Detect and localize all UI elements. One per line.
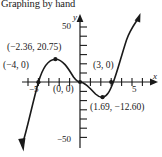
annotation-x-intercept-neg4: (−4, 0) xyxy=(3,61,29,71)
graph-figure: Graphing by hand xyxy=(0,0,162,157)
annotation-origin: (0, 0) xyxy=(53,85,74,95)
x-tick-label-neg5: −5 xyxy=(29,85,39,94)
point-local-max xyxy=(53,57,57,61)
x-axis-label: x xyxy=(153,72,157,81)
y-tick-label-neg50: −50 xyxy=(57,135,71,144)
point-origin xyxy=(78,80,82,84)
annotation-local-max: (−2.36, 20.75) xyxy=(7,43,61,53)
y-tick-label-50: 50 xyxy=(62,22,71,31)
annotation-local-min: (1.69, −12.60) xyxy=(90,103,144,113)
annotation-x-intercept-3: (3, 0) xyxy=(93,61,114,71)
cubic-graph-plot xyxy=(0,0,162,157)
y-axis-arrowhead xyxy=(77,14,84,22)
y-axis-label: y xyxy=(73,13,77,22)
point-local-min xyxy=(100,95,104,99)
curve-arrowhead-lower-left xyxy=(18,138,25,152)
point-x-intercept-3 xyxy=(109,80,113,84)
x-tick-label-5: 5 xyxy=(132,85,137,94)
curve-arrowhead-upper-right xyxy=(135,13,141,22)
